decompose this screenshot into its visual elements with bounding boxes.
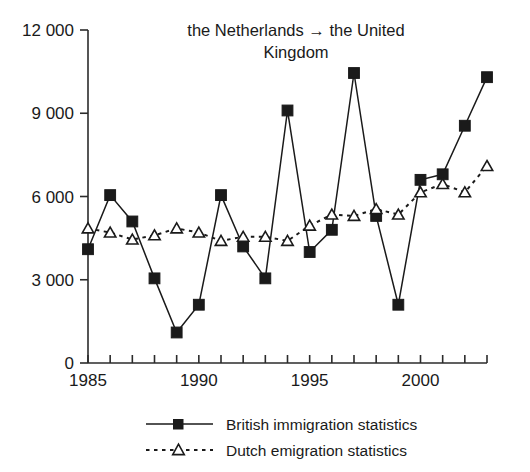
legend-label-dutch: Dutch emigration statistics xyxy=(226,442,407,459)
series-line-dutch xyxy=(88,166,487,241)
legend-label-british: British immigration statistics xyxy=(226,416,417,433)
legend-item-dutch[interactable]: Dutch emigration statistics xyxy=(146,442,407,459)
chart-title: the Netherlands → the United Kingdom xyxy=(187,21,404,61)
legend-marker-open-triangle xyxy=(173,444,185,454)
data-point-dutch-1985 xyxy=(82,223,93,233)
data-point-dutch-1991 xyxy=(215,235,226,245)
legend-marker-filled-square xyxy=(174,420,184,430)
data-point-british-2002 xyxy=(459,120,470,131)
data-point-british-1999 xyxy=(393,299,404,310)
chart-figure: the Netherlands → the United Kingdom 03 … xyxy=(0,0,530,472)
data-point-british-2000 xyxy=(415,174,426,185)
data-point-british-1994 xyxy=(282,105,293,116)
axis-lines xyxy=(88,30,487,363)
chart-legend: British immigration statistics Dutch emi… xyxy=(146,416,417,459)
data-point-british-1991 xyxy=(216,190,227,201)
data-point-british-1987 xyxy=(127,216,138,227)
markers-layer xyxy=(82,68,492,338)
data-point-dutch-1989 xyxy=(171,223,182,233)
x-tick-label: 2000 xyxy=(402,371,440,390)
data-point-british-1996 xyxy=(326,224,337,235)
data-point-dutch-2003 xyxy=(481,161,492,171)
data-point-dutch-1996 xyxy=(326,209,337,219)
data-point-british-1993 xyxy=(260,273,271,284)
y-axis: 03 0006 0009 00012 000 xyxy=(22,21,88,373)
legend-item-british[interactable]: British immigration statistics xyxy=(146,416,417,433)
y-tick-label: 12 000 xyxy=(22,21,74,40)
data-point-british-1986 xyxy=(105,190,116,201)
y-tick-label: 6 000 xyxy=(31,188,74,207)
data-point-british-1989 xyxy=(171,327,182,338)
data-point-british-1995 xyxy=(304,247,315,258)
line-chart: the Netherlands → the United Kingdom 03 … xyxy=(0,0,530,472)
chart-title-line-1: the Netherlands → the United xyxy=(187,21,404,39)
data-point-british-2003 xyxy=(482,72,493,83)
x-tick-label: 1985 xyxy=(69,371,107,390)
x-axis: 1985199019952000 xyxy=(69,355,487,390)
x-tick-label: 1990 xyxy=(180,371,218,390)
data-point-dutch-1998 xyxy=(370,204,381,214)
data-point-british-1990 xyxy=(193,299,204,310)
y-tick-label: 9 000 xyxy=(31,104,74,123)
chart-title-line-2: Kingdom xyxy=(263,43,328,61)
data-point-british-1988 xyxy=(149,273,160,284)
data-point-british-1997 xyxy=(349,68,360,79)
x-tick-label: 1995 xyxy=(291,371,329,390)
y-tick-label: 3 000 xyxy=(31,271,74,290)
data-point-dutch-1990 xyxy=(193,227,204,237)
data-point-british-1992 xyxy=(238,241,249,252)
data-point-british-1985 xyxy=(83,244,94,255)
